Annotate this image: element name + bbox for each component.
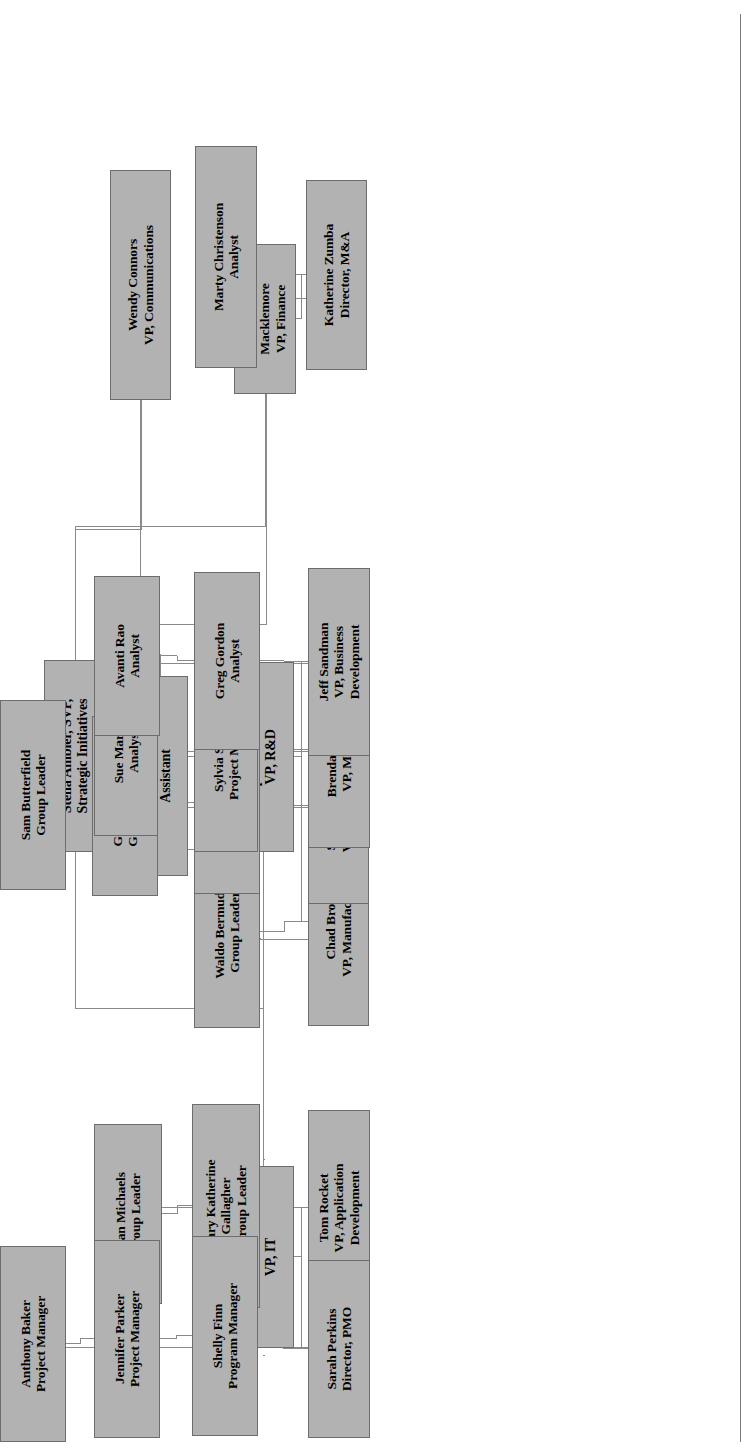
- connector-david-sarah-v2: [301, 1348, 308, 1349]
- node-anthony-baker[interactable]: Anthony BakerProject Manager: [0, 1246, 66, 1442]
- connector-stella-brenda_m-h1: [75, 527, 76, 660]
- node-text-line: Sam Butterfield: [18, 704, 33, 886]
- node-label: Anthony BakerProject Manager: [18, 1250, 48, 1438]
- node-text-line: Analyst: [226, 150, 241, 364]
- node-jennifer-parker[interactable]: Jennifer ParkerProject Manager: [94, 1240, 160, 1438]
- connector-stella-wendy-v: [75, 529, 141, 530]
- connector-stella-brendam: [266, 393, 267, 625]
- connector-greg-avanti-h: [177, 656, 178, 661]
- node-text-line: Jeff Sandman: [316, 572, 331, 752]
- org-chart-canvas: Stella Ambler, SVP,Strategic Initiatives…: [0, 0, 748, 1456]
- connector-brenda_m-katherine-h: [301, 275, 302, 319]
- connector-cooper-chad-v1: [294, 756, 301, 757]
- node-text-line: Greg Gordon: [212, 576, 227, 746]
- node-jeff-sandman[interactable]: Jeff SandmanVP, BusinessDevelopment: [308, 568, 370, 756]
- node-sam-butterfield[interactable]: Sam ButterfieldGroup Leader: [0, 700, 66, 890]
- node-text-line: VP, Business: [331, 572, 346, 752]
- connector-cooper-jeff-h: [301, 662, 302, 757]
- node-label: Marty ChristensonAnalyst: [211, 150, 241, 364]
- node-sarah-perkins[interactable]: Sarah PerkinsDirector, PMO: [308, 1260, 370, 1438]
- node-label: Sam ButterfieldGroup Leader: [18, 704, 48, 886]
- connector-jennifer-anthony-h: [80, 1339, 81, 1344]
- node-wendy-connors[interactable]: Wendy ConnorsVP, Communications: [110, 170, 171, 400]
- node-text-line: Wendy Connors: [125, 174, 140, 396]
- node-label: Avanti RaoAnalyst: [112, 580, 142, 732]
- node-text-line: Sarah Perkins: [324, 1264, 339, 1434]
- connector-jeff-greg-v2: [260, 660, 284, 661]
- node-label: Greg GordonAnalyst: [212, 576, 242, 746]
- connector-jennifer-anthony-v1: [80, 1338, 94, 1339]
- node-text-line: Analyst: [227, 576, 242, 746]
- node-text-line: VP, IT: [263, 1170, 279, 1344]
- node-text-line: Group Leader: [33, 704, 48, 886]
- node-label: Sarah PerkinsDirector, PMO: [324, 1264, 354, 1434]
- connector-cooper-jeff-v2: [301, 661, 308, 662]
- connector-spine-left: [263, 850, 264, 1160]
- node-text-line: Avanti Rao: [112, 580, 127, 732]
- connector-spine-david: [263, 1159, 265, 1160]
- node-avanti-rao[interactable]: Avanti RaoAnalyst: [94, 576, 160, 736]
- connector-cooper-brenda_p-v2: [301, 749, 308, 750]
- connector-david-tom-h: [301, 1208, 302, 1257]
- connector-marykath-evan: [162, 1207, 192, 1208]
- node-text-line: VP, Finance: [273, 248, 288, 390]
- connector-stella-david-h1: [75, 852, 76, 1009]
- node-text-line: Director, PMO: [339, 1264, 354, 1434]
- node-shelly-finn[interactable]: Shelly FinnProgram Manager: [192, 1236, 258, 1436]
- connector-shelly-jennifer-v2: [160, 1338, 176, 1339]
- connector-david-sarah-h: [301, 1257, 302, 1349]
- connector-shelly-jennifer: [160, 1347, 192, 1348]
- connector-chad-waldo: [260, 939, 308, 940]
- node-label: Katherine ZumbaDirector, M&A: [321, 184, 351, 366]
- connector-jennifer-anthony-v2: [66, 1343, 80, 1344]
- connector-cooper-scott-v2: [301, 805, 308, 806]
- connector-marykath-evan-v1: [177, 1205, 192, 1206]
- node-text-line: Macklemore: [257, 248, 272, 390]
- connector-chad-waldo-h: [284, 922, 285, 932]
- page-edge-rule: [740, 14, 741, 1442]
- node-label: Wendy ConnorsVP, Communications: [125, 174, 155, 396]
- node-text-line: VP, R&D: [263, 666, 279, 848]
- connector-greg-avanti: [160, 663, 194, 664]
- node-text-line: Jennifer Parker: [112, 1244, 127, 1434]
- node-text-line: Marty Christenson: [211, 150, 226, 364]
- connector-shelly-jennifer-h: [176, 1336, 177, 1339]
- node-text-line: Katherine Zumba: [321, 184, 336, 366]
- node-label: Jeff SandmanVP, BusinessDevelopment: [316, 572, 361, 752]
- node-text-line: Director, M&A: [337, 184, 352, 366]
- connector-shelly-jennifer-v1: [176, 1335, 192, 1336]
- node-text-line: Project Manager: [127, 1244, 142, 1434]
- node-text-line: VP, Communications: [141, 174, 156, 396]
- node-text-line: Strategic Initiatives: [75, 664, 91, 848]
- connector-david-children-bus: [263, 1355, 265, 1356]
- rotated-chart-stage: Stella Ambler, SVP,Strategic Initiatives…: [0, 0, 748, 1456]
- connector-stella-brenda_m-v: [75, 526, 265, 527]
- org-chart-page: Stella Ambler, SVP,Strategic Initiatives…: [0, 0, 748, 1456]
- node-text-line: Program Manager: [225, 1240, 240, 1432]
- connector-jennifer-anthony: [66, 1347, 94, 1348]
- connector-marykath-evan-v2: [162, 1213, 177, 1214]
- connector-cooper-chad-v2: [301, 921, 308, 922]
- node-text-line: Anthony Baker: [18, 1250, 33, 1438]
- connector-david-tom-v1: [294, 1256, 301, 1257]
- node-text-line: Project Manager: [33, 1250, 48, 1438]
- node-katherine-zumba[interactable]: Katherine ZumbaDirector, M&A: [306, 180, 367, 370]
- node-text-line: Analyst: [127, 580, 142, 732]
- connector-greg-avanti-v2: [160, 655, 177, 656]
- node-text-line: Development: [347, 572, 362, 752]
- connector-greg-avanti-v1: [177, 660, 194, 661]
- connector-chad-waldo-h: [260, 938, 261, 940]
- connector-cooper-chad-h: [301, 757, 302, 922]
- node-label: Jennifer ParkerProject Manager: [112, 1244, 142, 1434]
- node-text-line: Shelly Finn: [210, 1240, 225, 1432]
- node-marty-christenson[interactable]: Marty ChristensonAnalyst: [195, 146, 257, 368]
- node-text-line: Assistant: [158, 680, 174, 872]
- node-label: Shelly FinnProgram Manager: [210, 1240, 240, 1432]
- node-greg-gordon[interactable]: Greg GordonAnalyst: [194, 572, 260, 750]
